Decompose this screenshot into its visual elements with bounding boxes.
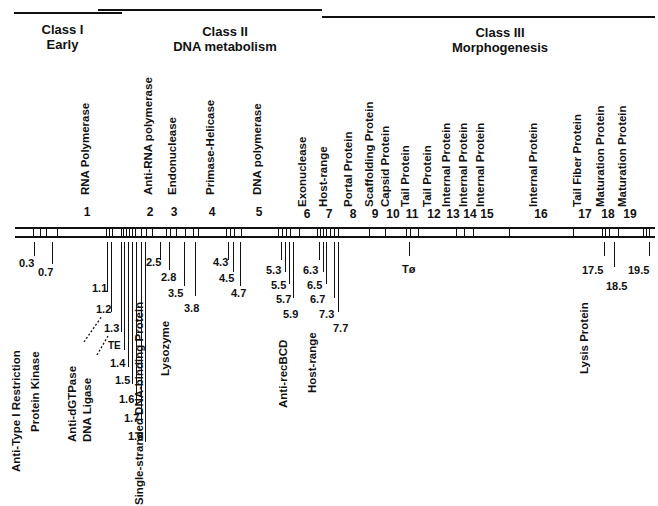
dna-ligase-leader	[97, 336, 108, 355]
anti-dgtpase-leader	[84, 316, 102, 342]
leader-lines	[0, 0, 658, 506]
